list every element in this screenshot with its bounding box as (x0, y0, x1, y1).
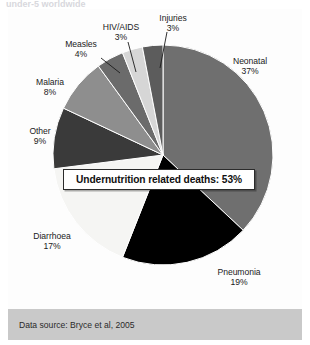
slice-label-pneumonia: Pneumonia 19% (204, 267, 274, 287)
slice-label-hivaids-pct: 3% (93, 32, 149, 42)
cut-off-caption-text: under-5 worldwide (6, 0, 186, 7)
pie-chart-svg (8, 9, 302, 304)
slice-label-injuries: Injuries 3% (148, 13, 198, 33)
slice-label-other-name: Other (29, 126, 50, 136)
slice-label-malaria: Malaria 8% (22, 77, 78, 97)
pie-chart-plot-area: Neonatal 37% Pneumonia 19% Diarrhoea 17%… (8, 9, 302, 304)
slice-label-diarrhoea-pct: 17% (19, 241, 85, 251)
figure-card: Neonatal 37% Pneumonia 19% Diarrhoea 17%… (8, 9, 302, 340)
slice-label-neonatal-pct: 37% (220, 66, 280, 76)
slice-label-measles-pct: 4% (55, 49, 107, 59)
slice-label-malaria-pct: 8% (22, 87, 78, 97)
undernutrition-callout-text: Undernutrition related deaths: 53% (76, 174, 242, 185)
slice-label-other-pct: 9% (17, 136, 63, 146)
slice-label-diarrhoea: Diarrhoea 17% (19, 231, 85, 251)
slice-label-neonatal: Neonatal 37% (220, 56, 280, 76)
slice-label-other: Other 9% (17, 126, 63, 146)
data-source-text: Data source: Bryce et al, 2005 (8, 320, 135, 330)
slice-label-pneumonia-name: Pneumonia (217, 267, 260, 277)
slice-label-injuries-pct: 3% (148, 23, 198, 33)
pie-slice-group (53, 45, 273, 265)
slice-label-injuries-name: Injuries (159, 13, 186, 23)
slice-label-malaria-name: Malaria (36, 77, 64, 87)
data-source-footer: Data source: Bryce et al, 2005 (8, 309, 302, 340)
slice-label-pneumonia-pct: 19% (204, 277, 274, 287)
undernutrition-callout-box: Undernutrition related deaths: 53% (63, 169, 255, 190)
slice-label-hivaids-name: HIV/AIDS (103, 22, 139, 32)
slice-label-neonatal-name: Neonatal (233, 56, 267, 66)
slice-label-diarrhoea-name: Diarrhoea (33, 231, 70, 241)
slice-label-hivaids: HIV/AIDS 3% (93, 22, 149, 42)
